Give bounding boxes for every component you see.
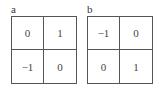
matrix-b-cell-1-1: 1 [120, 50, 152, 83]
matrix-a: 0 1 −1 0 [11, 16, 77, 84]
panel-b-label: b [87, 4, 93, 15]
matrix-a-cell-0-1: 1 [44, 17, 76, 50]
matrix-b-cell-0-1: 0 [120, 17, 152, 50]
matrix-b-cell-1-0: 0 [88, 50, 120, 83]
matrix-b: −1 0 0 1 [87, 16, 153, 84]
matrix-a-cell-1-0: −1 [12, 50, 44, 83]
matrix-a-cell-0-0: 0 [12, 17, 44, 50]
panel-a-label: a [11, 4, 16, 15]
matrix-a-cell-1-1: 0 [44, 50, 76, 83]
matrix-b-cell-0-0: −1 [88, 17, 120, 50]
